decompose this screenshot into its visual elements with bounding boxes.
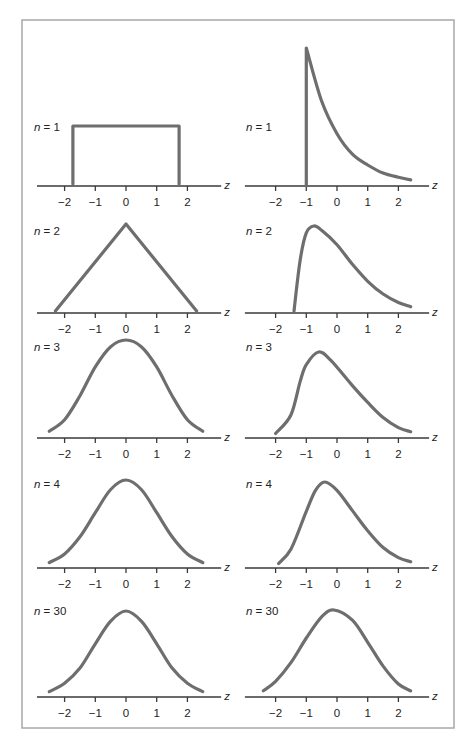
x-tick-label: −1 [89,448,102,460]
x-tick-label: 1 [364,578,370,590]
x-tick-label: −2 [58,448,71,460]
x-tick-label: 1 [364,448,370,460]
x-tick-label: 2 [184,448,190,460]
x-tick-label: −2 [269,196,282,208]
sample-size-label: n = 2 [34,225,60,237]
x-tick-label: 0 [123,323,129,335]
x-tick-label: 0 [334,323,340,335]
x-tick-label: −2 [269,448,282,460]
x-tick-label: 2 [395,196,401,208]
sample-size-label: n = 3 [246,341,272,353]
x-tick-label: 2 [395,323,401,335]
x-tick-label: 0 [334,578,340,590]
x-tick-label: 1 [153,323,159,335]
panel-left-n1: z−2−1012n = 1 [34,121,230,208]
density-curve [49,480,203,563]
x-tick-label: −1 [89,578,102,590]
z-axis-label: z [223,690,230,702]
x-tick-label: 0 [123,707,129,719]
x-tick-label: 0 [334,196,340,208]
x-tick-label: −2 [58,578,71,590]
x-tick-label: −2 [58,323,71,335]
density-curve [276,352,411,434]
x-tick-label: 2 [395,707,401,719]
x-tick-label: 2 [395,578,401,590]
sample-size-label: n = 4 [34,478,61,490]
x-tick-label: −1 [89,323,102,335]
x-tick-label: 1 [364,707,370,719]
x-tick-label: 0 [123,578,129,590]
x-tick-label: −1 [89,707,102,719]
density-curve [49,340,203,431]
x-tick-label: 0 [334,448,340,460]
x-tick-label: 2 [184,196,190,208]
sample-size-label: n = 4 [246,478,273,490]
density-curve [279,482,411,563]
x-tick-label: −1 [300,196,313,208]
x-tick-label: −1 [300,707,313,719]
z-axis-label: z [431,179,438,191]
x-tick-label: 0 [334,707,340,719]
z-axis-label: z [223,561,230,573]
panel-left-n3: z−2−1012n = 3 [34,340,230,460]
density-curve [294,226,411,311]
z-axis-label: z [431,431,438,443]
panel-right-n2: z−2−1012n = 2 [245,225,438,335]
x-tick-label: 0 [123,448,129,460]
z-axis-label: z [431,561,438,573]
density-curve [55,224,196,311]
panels-container: z−2−1012n = 1z−2−1012n = 2z−2−1012n = 3z… [34,48,438,719]
sample-size-label: n = 30 [246,605,278,617]
sample-size-label: n = 3 [34,341,60,353]
sample-size-label: n = 30 [34,605,66,617]
density-curve [306,48,410,186]
x-tick-label: −2 [269,323,282,335]
x-tick-label: −2 [58,707,71,719]
x-tick-label: 1 [153,448,159,460]
panel-left-n2: z−2−1012n = 2 [34,224,230,335]
panel-right-n4: z−2−1012n = 4 [245,478,438,590]
x-tick-label: −1 [300,578,313,590]
panel-right-n1: z−2−1012n = 1 [245,48,438,208]
z-axis-label: z [223,179,230,191]
x-tick-label: 1 [153,196,159,208]
density-curve [263,610,410,691]
x-tick-label: −2 [269,578,282,590]
sample-size-label: n = 1 [34,121,60,133]
x-tick-label: −1 [300,323,313,335]
x-tick-label: 1 [364,196,370,208]
x-tick-label: 0 [123,196,129,208]
panel-left-n4: z−2−1012n = 4 [34,478,230,590]
sample-size-label: n = 2 [246,225,272,237]
x-tick-label: 1 [153,578,159,590]
z-axis-label: z [431,690,438,702]
z-axis-label: z [431,306,438,318]
x-tick-label: −2 [269,707,282,719]
x-tick-label: 1 [153,707,159,719]
z-axis-label: z [223,431,230,443]
x-tick-label: 2 [395,448,401,460]
panel-right-n30: z−2−1012n = 30 [245,605,438,719]
panel-left-n30: z−2−1012n = 30 [34,605,230,719]
x-tick-label: 2 [184,323,190,335]
sample-size-label: n = 1 [246,121,272,133]
x-tick-label: 2 [184,707,190,719]
x-tick-label: 2 [184,578,190,590]
x-tick-label: −1 [89,196,102,208]
x-tick-label: −1 [300,448,313,460]
x-tick-label: 1 [364,323,370,335]
density-curve [73,126,179,184]
panel-right-n3: z−2−1012n = 3 [245,341,438,460]
density-curve [49,611,203,692]
x-tick-label: −2 [58,196,71,208]
z-axis-label: z [223,306,230,318]
sampling-distribution-figure: z−2−1012n = 1z−2−1012n = 2z−2−1012n = 3z… [0,0,468,751]
